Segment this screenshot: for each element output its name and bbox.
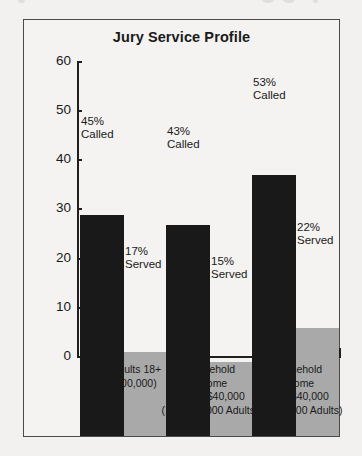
y-tick-60 <box>77 61 82 63</box>
bar-label-called-word-2: Called <box>167 138 200 151</box>
bar-label-served-word-3: Served <box>297 234 333 247</box>
y-tick-50 <box>77 110 82 112</box>
y-tick-label-0: 0 <box>24 348 71 363</box>
category-label-3-line-4: (56,000,000 Adults) <box>237 404 357 418</box>
bar-label-called-pct-1: 45% <box>81 115 114 128</box>
y-tick-40 <box>77 159 82 161</box>
y-tick-label-20: 20 <box>24 250 71 265</box>
plot-area: 60 50 40 30 20 10 0 45% Called 17% Serve… <box>24 20 339 436</box>
bar-label-called-group-2: 43% Called <box>167 125 200 151</box>
bar-called-group-1 <box>80 215 124 436</box>
category-label-3: Household Income Over $40,000 (56,000,00… <box>237 363 357 417</box>
category-label-3-line-3: Over $40,000 <box>237 390 357 404</box>
scan-artifacts <box>0 0 362 12</box>
category-label-3-line-1: Household <box>237 363 357 377</box>
y-tick-label-40: 40 <box>24 151 71 166</box>
bar-label-called-group-1: 45% Called <box>81 115 114 141</box>
y-tick-label-10: 10 <box>24 299 71 314</box>
chart-frame: Jury Service Profile 60 50 40 30 20 10 0… <box>23 19 340 437</box>
bar-label-called-group-3: 53% Called <box>253 76 286 102</box>
bar-label-called-pct-3: 53% <box>253 76 286 89</box>
bar-label-served-group-1: 17% Served <box>125 245 161 271</box>
y-tick-label-60: 60 <box>24 53 71 68</box>
bar-label-served-group-3: 22% Served <box>297 221 333 247</box>
y-tick-label-30: 30 <box>24 200 71 215</box>
category-label-3-line-2: Income <box>237 377 357 391</box>
bar-label-served-pct-2: 15% <box>211 255 247 268</box>
bar-label-served-word-2: Served <box>211 268 247 281</box>
y-tick-30 <box>77 208 82 210</box>
bar-label-served-pct-1: 17% <box>125 245 161 258</box>
bar-label-served-word-1: Served <box>125 258 161 271</box>
bar-label-called-word-3: Called <box>253 89 286 102</box>
bar-label-served-group-2: 15% Served <box>211 255 247 281</box>
bar-label-called-pct-2: 43% <box>167 125 200 138</box>
bar-label-called-word-1: Called <box>81 128 114 141</box>
y-tick-label-50: 50 <box>24 102 71 117</box>
x-axis-right-cap <box>339 348 341 357</box>
bar-label-served-pct-3: 22% <box>297 221 333 234</box>
